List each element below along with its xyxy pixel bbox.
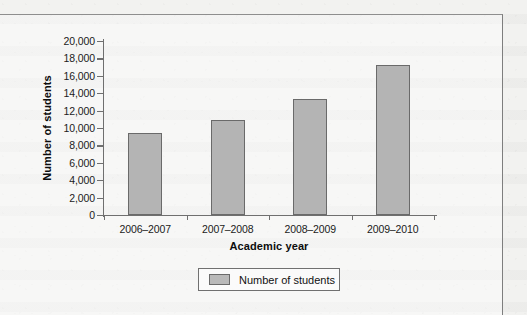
x-tick-mark <box>187 215 188 220</box>
y-tick-mark <box>97 198 103 199</box>
x-axis-line <box>97 215 437 216</box>
bar <box>376 65 410 215</box>
y-tick-label: 8,000 <box>69 139 95 151</box>
chart-legend: Number of students <box>198 268 340 291</box>
y-tick-mark <box>97 111 103 112</box>
legend-label: Number of students <box>239 274 335 286</box>
x-tick-label: 2009–2010 <box>367 223 419 235</box>
x-tick-label: 2006–2007 <box>119 223 171 235</box>
y-tick-mark <box>97 58 103 59</box>
x-tick-label: 2008–2009 <box>284 223 336 235</box>
y-tick-label: 4,000 <box>69 174 95 186</box>
bar <box>211 120 245 215</box>
y-tick-label: 14,000 <box>63 87 95 99</box>
y-tick-mark <box>97 76 103 77</box>
bar <box>128 133 162 215</box>
y-tick-label: 2,000 <box>69 192 95 204</box>
y-tick-label: 20,000 <box>63 35 95 47</box>
y-axis-title: Number of students <box>41 75 53 181</box>
y-tick-mark <box>97 93 103 94</box>
x-tick-mark <box>352 215 353 220</box>
x-tick-mark <box>269 215 270 220</box>
y-tick-label: 12,000 <box>63 105 95 117</box>
legend-swatch-icon <box>209 274 230 285</box>
x-tick-label: 2007–2008 <box>202 223 254 235</box>
y-tick-label: 0 <box>89 209 95 221</box>
y-tick-label: 16,000 <box>63 70 95 82</box>
y-tick-mark <box>97 163 103 164</box>
y-tick-mark <box>97 180 103 181</box>
y-tick-mark <box>97 215 103 216</box>
y-tick-mark <box>97 128 103 129</box>
y-tick-label: 6,000 <box>69 157 95 169</box>
x-tick-mark <box>434 215 435 220</box>
y-tick-label: 18,000 <box>63 52 95 64</box>
x-axis-title: Academic year <box>104 240 434 252</box>
plot-area: 02,0004,0006,0008,00010,00012,00014,0001… <box>104 41 434 215</box>
y-tick-mark <box>97 41 103 42</box>
x-tick-mark <box>104 215 105 220</box>
y-tick-mark <box>97 145 103 146</box>
bar <box>293 99 327 215</box>
y-tick-label: 10,000 <box>63 122 95 134</box>
